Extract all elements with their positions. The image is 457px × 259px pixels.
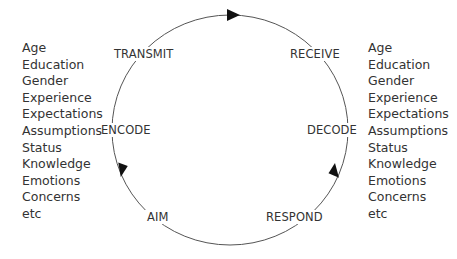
node-decode: DECODE	[305, 123, 359, 137]
left-factor: Emotions	[22, 173, 103, 190]
left-factor: Experience	[22, 90, 103, 107]
left-factor: Knowledge	[22, 156, 103, 173]
left-factor: Gender	[22, 73, 103, 90]
node-aim: AIM	[145, 210, 170, 224]
left-factor: etc	[22, 206, 103, 223]
right-factor: etc	[368, 206, 449, 223]
node-receive: RECEIVE	[288, 47, 342, 61]
left-factor: Expectations	[22, 106, 103, 123]
arrow-top-icon	[227, 9, 240, 21]
arrow-right-icon	[328, 162, 341, 177]
left-factor: Assumptions	[22, 123, 103, 140]
right-factor: Age	[368, 40, 449, 57]
right-factor: Expectations	[368, 106, 449, 123]
node-encode: ENCODE	[99, 123, 153, 137]
right-factor: Status	[368, 140, 449, 157]
node-respond: RESPOND	[264, 210, 325, 224]
right-factor: Concerns	[368, 189, 449, 206]
right-factor: Education	[368, 57, 449, 74]
right-factors-list: Age Education Gender Experience Expectat…	[368, 40, 449, 223]
left-factors-list: Age Education Gender Experience Expectat…	[22, 40, 103, 223]
left-factor: Status	[22, 140, 103, 157]
right-factor: Knowledge	[368, 156, 449, 173]
left-factor: Age	[22, 40, 103, 57]
right-factor: Gender	[368, 73, 449, 90]
left-factor: Concerns	[22, 189, 103, 206]
right-factor: Emotions	[368, 173, 449, 190]
node-transmit: TRANSMIT	[112, 47, 175, 61]
right-factor: Assumptions	[368, 123, 449, 140]
right-factor: Experience	[368, 90, 449, 107]
left-factor: Education	[22, 57, 103, 74]
